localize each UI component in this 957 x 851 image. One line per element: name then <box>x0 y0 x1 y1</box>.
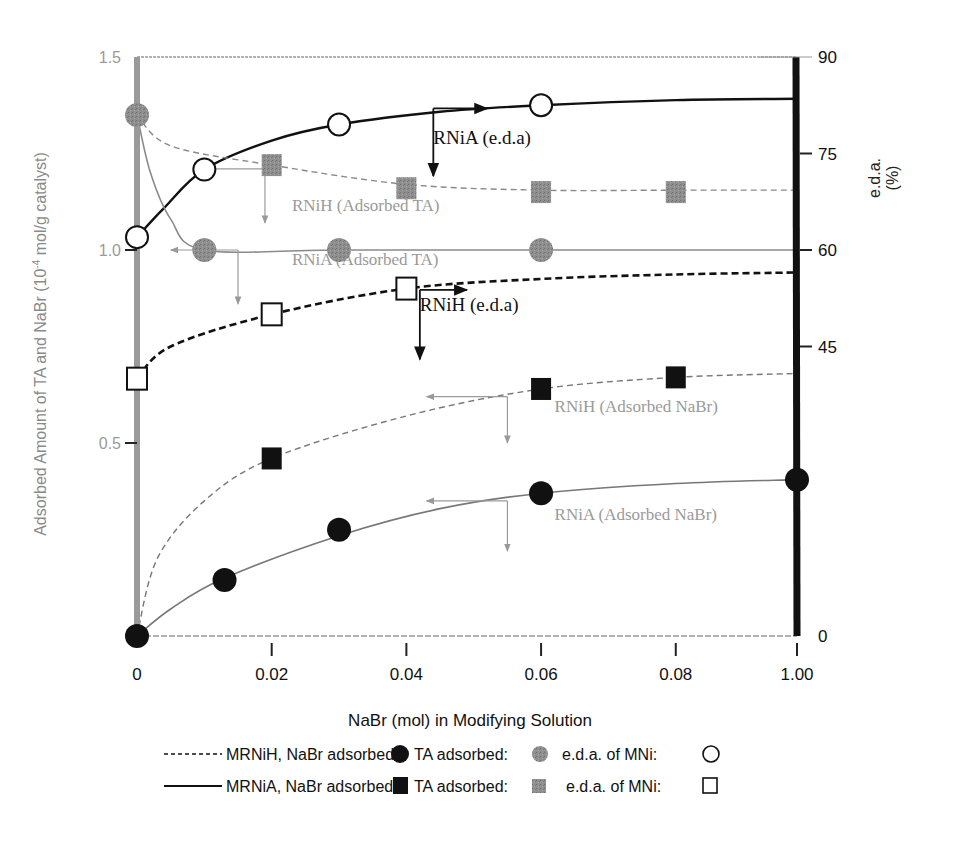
gray-circle-marker <box>125 103 149 127</box>
legend: MRNiH, NaBr adsorbed: TA adsorbed: e.d.a… <box>164 745 719 795</box>
legend-ta-label: TA adsorbed: <box>414 778 508 795</box>
open-circle-marker <box>328 114 350 136</box>
gray-square-icon <box>532 779 546 793</box>
x-tick-label: 0 <box>132 665 141 684</box>
x-tick-label: 0.02 <box>255 665 288 684</box>
open-circle-marker <box>193 159 215 181</box>
left-y-axis: 0.51.01.5 Adsorbed Amount of TA and NaBr… <box>31 49 137 636</box>
gray-square-marker <box>396 177 416 199</box>
x-ticks: 00.020.040.060.081.00 <box>132 643 813 684</box>
series-line <box>137 99 797 237</box>
series-line <box>137 273 797 379</box>
open-circle-marker <box>126 226 148 248</box>
black-square-icon <box>393 777 408 794</box>
legend-eda-label: e.d.a. of MNi: <box>566 778 661 795</box>
annotation-label: RNiH (e.d.a) <box>420 294 519 316</box>
legend-row-1: MRNiH, NaBr adsorbed: TA adsorbed: e.d.a… <box>164 745 719 763</box>
open-circle-marker <box>530 94 552 116</box>
x-axis-label: NaBr (mol) in Modifying Solution <box>348 711 592 730</box>
right-tick-label: 0 <box>818 627 827 646</box>
annotation-label: RNiH (Adsorbed TA) <box>292 196 440 215</box>
right-tick-label: 60 <box>818 241 837 260</box>
annotation-layer: RNiA (e.d.a)RNiH (e.d.a)RNiH (Adsorbed T… <box>171 108 718 551</box>
open-square-marker <box>127 368 147 390</box>
legend-eda-label: e.d.a. of MNi: <box>562 746 657 763</box>
black-circle-marker <box>785 468 809 492</box>
right-y-axis-label-line2: (%) <box>884 166 901 191</box>
gray-square-marker <box>262 154 282 176</box>
right-tick-label: 75 <box>818 145 837 164</box>
legend-label: MRNiH, NaBr adsorbed: <box>226 746 399 763</box>
annotation-label: RNiH (Adsorbed NaBr) <box>555 397 718 416</box>
black-square-marker <box>666 366 686 388</box>
black-circle-marker <box>125 624 149 648</box>
x-axis: 00.020.040.060.081.00 NaBr (mol) in Modi… <box>132 643 813 730</box>
open-square-icon <box>703 778 717 793</box>
black-circle-marker <box>213 568 237 592</box>
legend-row-2: MRNiA, NaBr adsorbed: TA adsorbed: e.d.a… <box>164 777 717 795</box>
right-y-axis: 045607590 e.d.a. (%) <box>760 48 901 646</box>
left-y-axis-label: Adsorbed Amount of TA and NaBr (10-4 mol… <box>31 152 49 536</box>
left-tick-label: 0.5 <box>99 435 121 452</box>
right-axis-line <box>796 57 797 636</box>
black-circle-marker <box>529 481 553 505</box>
gray-circle-marker <box>327 238 351 262</box>
gray-square-marker <box>531 181 551 203</box>
open-square-marker <box>262 303 282 325</box>
marker-layer <box>125 94 809 648</box>
x-tick-label: 0.08 <box>659 665 692 684</box>
legend-label: MRNiA, NaBr adsorbed: <box>226 778 398 795</box>
black-circle-icon <box>391 745 409 763</box>
open-square-marker <box>396 278 416 300</box>
x-tick-label: 0.04 <box>390 665 423 684</box>
gray-square-marker <box>666 181 686 203</box>
x-tick-label: 0.06 <box>525 665 558 684</box>
annotation-label: RNiA (e.d.a) <box>433 127 531 149</box>
right-tick-label: 90 <box>818 48 837 67</box>
open-circle-icon <box>703 746 719 762</box>
series-line <box>137 480 797 636</box>
series-layer <box>137 99 797 636</box>
black-circle-marker <box>327 518 351 542</box>
left-tick-label: 1.0 <box>99 242 121 259</box>
right-tick-label: 45 <box>818 338 837 357</box>
gray-circle-icon <box>532 746 548 762</box>
black-square-marker <box>531 378 551 400</box>
x-tick-label: 1.00 <box>780 665 813 684</box>
black-square-marker <box>262 447 282 469</box>
chart: RNiA (e.d.a)RNiH (e.d.a)RNiH (Adsorbed T… <box>0 0 957 851</box>
legend-ta-label: TA adsorbed: <box>414 746 508 763</box>
right-y-axis-label-line1: e.d.a. <box>866 158 883 198</box>
annotation-label: RNiA (Adsorbed TA) <box>292 250 439 269</box>
left-tick-label: 1.5 <box>99 49 121 66</box>
annotation-label: RNiA (Adsorbed NaBr) <box>555 505 717 524</box>
gray-circle-marker <box>529 238 553 262</box>
gray-circle-marker <box>192 238 216 262</box>
